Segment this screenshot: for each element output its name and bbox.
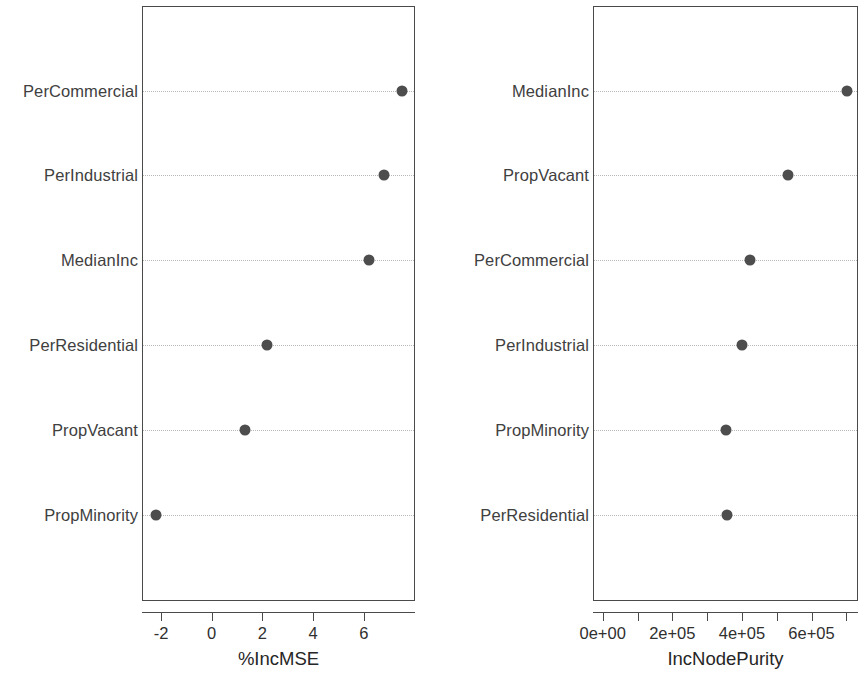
category-label: PerIndustrial [44, 166, 138, 185]
guide-line [594, 345, 857, 346]
guide-line [594, 175, 857, 176]
axis-tick-label: 2 [258, 624, 267, 643]
data-point [379, 170, 390, 181]
data-point [783, 170, 794, 181]
category-label: PerResidential [480, 506, 589, 525]
category-label: PerCommercial [474, 251, 589, 270]
category-label: PropVacant [52, 421, 138, 440]
data-point [745, 255, 756, 266]
guide-line [594, 260, 857, 261]
category-label: PerCommercial [23, 82, 138, 101]
axis-tick-label: 0e+00 [580, 624, 626, 643]
category-label: MedianInc [61, 251, 138, 270]
axis-tick [262, 612, 263, 621]
data-point [262, 340, 273, 351]
guide-line [143, 515, 414, 516]
axis-tick [672, 612, 673, 621]
guide-line [143, 430, 414, 431]
data-point [722, 510, 733, 521]
guide-line [143, 91, 414, 92]
category-label: MedianInc [512, 82, 589, 101]
guide-line [143, 175, 414, 176]
axis-tick [638, 612, 639, 621]
axis-tick-label: 2e+05 [649, 624, 695, 643]
axis-tick-label: 0 [207, 624, 216, 643]
category-label: PropMinority [44, 506, 138, 525]
axis-tick-label: 4 [309, 624, 318, 643]
axis-tick [212, 612, 213, 621]
guide-line [594, 91, 857, 92]
data-point [737, 340, 748, 351]
variable-importance-figure: PerCommercialPerIndustrialMedianIncPerRe… [0, 0, 862, 673]
data-point [721, 425, 732, 436]
data-point [841, 86, 852, 97]
axis-tick [313, 612, 314, 621]
panel-inc-node-purity: MedianIncPropVacantPerCommercialPerIndus… [431, 0, 862, 673]
axis-tick [846, 612, 847, 621]
x-axis-title-right: IncNodePurity [667, 648, 783, 670]
axis-tick [812, 612, 813, 621]
plot-frame-left [142, 6, 415, 601]
data-point [239, 425, 250, 436]
axis-tick [777, 612, 778, 621]
axis-tick-label: -2 [154, 624, 169, 643]
guide-line [143, 345, 414, 346]
data-point [150, 510, 161, 521]
axis-tick-label: 6 [359, 624, 368, 643]
axis-tick [161, 612, 162, 621]
axis-tick [707, 612, 708, 621]
data-point [396, 86, 407, 97]
category-label: PerResidential [29, 336, 138, 355]
axis-tick-label: 6e+05 [788, 624, 834, 643]
axis-tick [364, 612, 365, 621]
category-label: PropVacant [503, 166, 589, 185]
x-axis-line-right [593, 612, 858, 613]
data-point [363, 255, 374, 266]
panel-inc-mse: PerCommercialPerIndustrialMedianIncPerRe… [0, 0, 431, 673]
category-label: PropMinority [495, 421, 589, 440]
axis-tick [742, 612, 743, 621]
x-axis-title-left: %IncMSE [238, 648, 319, 670]
axis-tick-label: 4e+05 [719, 624, 765, 643]
x-axis-line-left [142, 612, 415, 613]
category-label: PerIndustrial [495, 336, 589, 355]
axis-tick [603, 612, 604, 621]
